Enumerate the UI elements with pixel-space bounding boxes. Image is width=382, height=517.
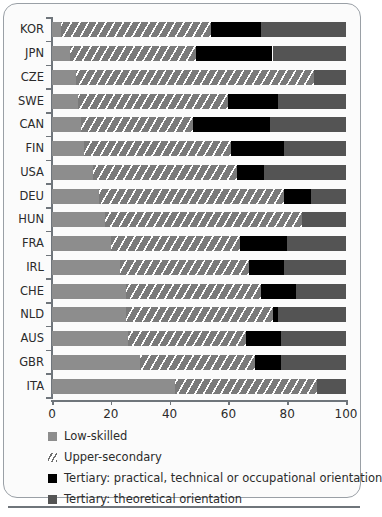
- bar-segment: [52, 141, 84, 156]
- x-axis-tick: [346, 400, 348, 405]
- y-axis-label-jpn: JPN: [4, 46, 44, 61]
- bar-segment: [76, 70, 314, 85]
- legend-swatch-icon: [48, 474, 57, 483]
- y-axis-label-swe: SWE: [4, 94, 44, 109]
- legend-label: Low-skilled: [64, 428, 127, 444]
- y-axis-label-fra: FRA: [4, 236, 44, 251]
- bar-row: [52, 165, 346, 180]
- bar-segment: [111, 236, 240, 251]
- y-axis-label-aus: AUS: [4, 331, 44, 346]
- x-axis-tick: [170, 400, 172, 405]
- bar-row: [52, 94, 346, 109]
- legend-label: Tertiary: practical, technical or occupa…: [64, 470, 382, 486]
- bar-segment: [237, 165, 263, 180]
- bar-segment: [196, 46, 272, 61]
- bar-segment: [311, 189, 346, 204]
- legend-item: Upper-secondary: [48, 449, 358, 466]
- bar-segment: [249, 260, 284, 275]
- y-axis-tick: [46, 278, 51, 280]
- bar-segment: [128, 331, 246, 346]
- bar-segment: [120, 260, 249, 275]
- bar-segment: [52, 260, 120, 275]
- y-axis-label-che: CHE: [4, 284, 44, 299]
- bar-segment: [264, 165, 346, 180]
- bar-series-group: [52, 18, 346, 398]
- y-axis-label-usa: USA: [4, 165, 44, 180]
- bar-segment: [52, 46, 70, 61]
- x-axis-label-100: 100: [326, 407, 366, 421]
- bar-segment: [175, 379, 316, 394]
- bar-segment: [193, 117, 269, 132]
- footer-rule: [8, 506, 360, 508]
- y-axis-tick: [46, 41, 51, 43]
- bar-segment: [240, 236, 287, 251]
- bar-segment: [270, 117, 346, 132]
- bar-segment: [52, 236, 111, 251]
- y-axis-label-cze: CZE: [4, 70, 44, 85]
- bar-segment: [317, 379, 346, 394]
- bar-segment: [255, 355, 281, 370]
- y-axis-label-gbr: GBR: [4, 355, 44, 370]
- bar-segment: [52, 355, 140, 370]
- y-axis-label-deu: DEU: [4, 189, 44, 204]
- legend-label: Tertiary: theoretical orientation: [64, 491, 242, 507]
- bar-segment: [52, 189, 99, 204]
- y-axis-tick: [46, 17, 51, 19]
- bar-segment: [211, 22, 261, 37]
- bar-segment: [52, 212, 105, 227]
- x-axis-label-40: 40: [150, 407, 190, 421]
- legend-label: Upper-secondary: [64, 449, 162, 465]
- x-axis-tick: [287, 400, 289, 405]
- bar-segment: [228, 94, 278, 109]
- bar-row: [52, 355, 346, 370]
- bar-segment: [302, 212, 346, 227]
- bar-row: [52, 331, 346, 346]
- bar-segment: [81, 117, 193, 132]
- y-axis-tick: [46, 183, 51, 185]
- bar-segment: [105, 212, 302, 227]
- bar-segment: [287, 236, 346, 251]
- bar-segment: [278, 94, 346, 109]
- y-axis-label-can: CAN: [4, 117, 44, 132]
- x-axis-label-60: 60: [208, 407, 248, 421]
- bar-segment: [314, 70, 346, 85]
- bar-segment: [231, 141, 284, 156]
- y-axis-tick: [46, 326, 51, 328]
- legend-item: Low-skilled: [48, 428, 358, 445]
- y-axis-tick: [46, 231, 51, 233]
- x-axis-label-0: 0: [32, 407, 72, 421]
- y-axis-label-irl: IRL: [4, 260, 44, 275]
- bar-segment: [284, 260, 346, 275]
- bar-segment: [52, 70, 76, 85]
- x-axis-label-20: 20: [91, 407, 131, 421]
- y-axis-tick: [46, 88, 51, 90]
- chart-legend: Low-skilledUpper-secondaryTertiary: prac…: [48, 428, 358, 512]
- bar-row: [52, 307, 346, 322]
- y-axis-label-ita: ITA: [4, 379, 44, 394]
- bar-row: [52, 379, 346, 394]
- bar-segment: [61, 22, 211, 37]
- y-axis-tick: [46, 65, 51, 67]
- bar-segment: [52, 284, 126, 299]
- bar-row: [52, 284, 346, 299]
- bar-segment: [284, 189, 310, 204]
- bar-segment: [261, 22, 346, 37]
- bar-row: [52, 70, 346, 85]
- legend-swatch-icon: [48, 495, 57, 504]
- y-axis-label-nld: NLD: [4, 307, 44, 322]
- legend-item: Tertiary: practical, technical or occupa…: [48, 470, 358, 487]
- x-axis-line: [51, 400, 347, 402]
- bar-segment: [52, 22, 61, 37]
- x-axis-label-80: 80: [267, 407, 307, 421]
- legend-swatch-icon: [48, 453, 57, 462]
- bar-row: [52, 212, 346, 227]
- bar-segment: [140, 355, 255, 370]
- bar-segment: [93, 165, 237, 180]
- bar-segment: [281, 355, 346, 370]
- bar-segment: [273, 46, 347, 61]
- x-axis-tick: [52, 400, 54, 405]
- y-axis-tick: [46, 112, 51, 114]
- bar-row: [52, 141, 346, 156]
- chart-card: KORJPNCZESWECANFINUSADEUHUNFRAIRLCHENLDA…: [3, 3, 361, 498]
- bar-segment: [52, 331, 128, 346]
